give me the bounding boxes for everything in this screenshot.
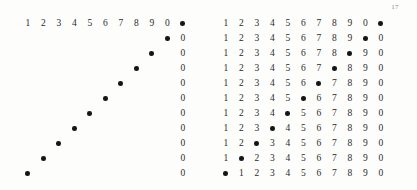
grid-cell-empty bbox=[67, 106, 83, 121]
grid-cell-empty bbox=[113, 106, 129, 121]
grid-row: 0 bbox=[20, 91, 191, 106]
grid-cell-digit: 7 bbox=[311, 31, 327, 46]
grid-cell-empty bbox=[113, 91, 129, 106]
grid-cell-digit: 9 bbox=[358, 91, 374, 106]
grid-cell-digit: 6 bbox=[296, 16, 312, 31]
grid-cell-digit: 6 bbox=[311, 151, 327, 166]
grid-row: 1234567890 bbox=[218, 106, 389, 121]
grid-cell-digit: 7 bbox=[113, 16, 129, 31]
grid-cell-empty bbox=[98, 76, 114, 91]
grid-cell-digit: 4 bbox=[265, 16, 281, 31]
grid-cell-digit: 5 bbox=[82, 16, 98, 31]
grid-cell-digit: 8 bbox=[327, 31, 343, 46]
grid-cell-digit: 1 bbox=[218, 121, 234, 136]
grid-cell-digit: 8 bbox=[342, 166, 358, 181]
grid-cell-empty bbox=[51, 76, 67, 91]
grid-cell-empty bbox=[144, 61, 160, 76]
grid-cell-digit: 4 bbox=[265, 91, 281, 106]
grid-cell-empty bbox=[51, 151, 67, 166]
grid-cell-empty bbox=[98, 136, 114, 151]
grid-cell-empty bbox=[36, 31, 52, 46]
marker-dot-icon bbox=[296, 91, 312, 106]
grid-cell-digit: 3 bbox=[249, 76, 265, 91]
grid-cell-empty bbox=[129, 166, 145, 181]
marker-dot-icon bbox=[280, 106, 296, 121]
grid-cell-empty bbox=[36, 46, 52, 61]
grid-row: 0 bbox=[20, 106, 191, 121]
grid-cell-digit: 0 bbox=[175, 166, 191, 181]
grid-cell-empty bbox=[51, 61, 67, 76]
grid-cell-empty bbox=[160, 61, 176, 76]
grid-cell-digit: 9 bbox=[342, 16, 358, 31]
grid-cell-empty bbox=[67, 166, 83, 181]
grid-row: 1234567890 bbox=[218, 166, 389, 181]
grid-cell-empty bbox=[67, 76, 83, 91]
grid-cell-empty bbox=[20, 46, 36, 61]
grid-cell-digit: 6 bbox=[311, 136, 327, 151]
grid-cell-digit: 2 bbox=[234, 61, 250, 76]
grid-cell-digit: 5 bbox=[280, 91, 296, 106]
grid-cell-digit: 4 bbox=[280, 121, 296, 136]
grid-cell-digit: 9 bbox=[358, 106, 374, 121]
grid-cell-digit: 5 bbox=[296, 151, 312, 166]
grid-row: 0 bbox=[20, 61, 191, 76]
grid-cell-digit: 7 bbox=[327, 151, 343, 166]
grid-cell-empty bbox=[51, 31, 67, 46]
grid-cell-empty bbox=[144, 136, 160, 151]
marker-dot-icon bbox=[144, 46, 160, 61]
grid-cell-empty bbox=[98, 106, 114, 121]
grid-cell-empty bbox=[67, 91, 83, 106]
grid-cell-digit: 9 bbox=[358, 46, 374, 61]
grid-row: 1234567890 bbox=[218, 46, 389, 61]
grid-cell-digit: 4 bbox=[265, 76, 281, 91]
grid-cell-empty bbox=[82, 31, 98, 46]
grid-cell-empty bbox=[129, 106, 145, 121]
grid-cell-empty bbox=[144, 151, 160, 166]
marker-dot-icon bbox=[265, 121, 281, 136]
grid-cell-digit: 5 bbox=[296, 166, 312, 181]
grid-cell-empty bbox=[51, 166, 67, 181]
grid-cell-digit: 0 bbox=[373, 61, 389, 76]
grid-cell-empty bbox=[51, 106, 67, 121]
grid-cell-empty bbox=[36, 76, 52, 91]
grid-cell-empty bbox=[129, 46, 145, 61]
grid-cell-digit: 6 bbox=[311, 91, 327, 106]
grid-cell-digit: 0 bbox=[373, 46, 389, 61]
grid-cell-digit: 8 bbox=[129, 16, 145, 31]
grid-cell-digit: 1 bbox=[234, 166, 250, 181]
marker-dot-icon bbox=[218, 166, 234, 181]
grid-cell-digit: 5 bbox=[280, 46, 296, 61]
grid-cell-digit: 2 bbox=[234, 46, 250, 61]
grid-cell-empty bbox=[82, 76, 98, 91]
grid-cell-empty bbox=[51, 121, 67, 136]
grid-cell-digit: 1 bbox=[218, 61, 234, 76]
grid-cell-digit: 3 bbox=[249, 106, 265, 121]
marker-dot-icon bbox=[20, 166, 36, 181]
marker-dot-icon bbox=[51, 136, 67, 151]
grid-cell-empty bbox=[36, 91, 52, 106]
grid-cell-empty bbox=[20, 61, 36, 76]
page-number: 17 bbox=[391, 4, 399, 11]
grid-cell-digit: 1 bbox=[218, 106, 234, 121]
grid-cell-digit: 9 bbox=[144, 16, 160, 31]
grid-cell-digit: 3 bbox=[51, 16, 67, 31]
marker-dot-icon bbox=[373, 16, 389, 31]
grid-cell-digit: 9 bbox=[342, 31, 358, 46]
grid-cell-digit: 3 bbox=[249, 16, 265, 31]
grid-cell-empty bbox=[20, 76, 36, 91]
grid-cell-digit: 6 bbox=[296, 76, 312, 91]
grid-cell-empty bbox=[36, 166, 52, 181]
grid-cell-digit: 2 bbox=[36, 16, 52, 31]
grid-cell-empty bbox=[160, 136, 176, 151]
grid-cell-digit: 9 bbox=[358, 151, 374, 166]
grid-cell-digit: 0 bbox=[175, 136, 191, 151]
grid-cell-empty bbox=[51, 46, 67, 61]
grid-cell-digit: 1 bbox=[218, 151, 234, 166]
grid-cell-digit: 9 bbox=[358, 61, 374, 76]
grid-cell-digit: 2 bbox=[234, 136, 250, 151]
grid-cell-digit: 2 bbox=[234, 31, 250, 46]
grid-cell-digit: 0 bbox=[175, 106, 191, 121]
grid-cell-digit: 9 bbox=[358, 121, 374, 136]
grid-cell-digit: 0 bbox=[373, 31, 389, 46]
grid-cell-empty bbox=[82, 151, 98, 166]
